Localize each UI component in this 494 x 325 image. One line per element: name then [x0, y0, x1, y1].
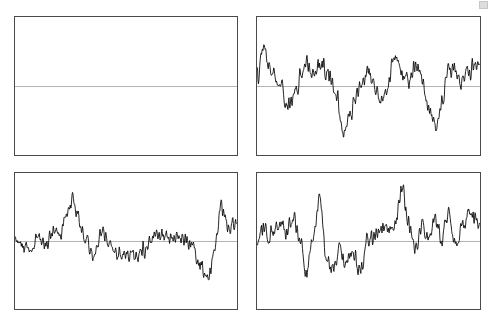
panel-bottom-left[interactable]	[14, 172, 238, 310]
panel-plot-area	[14, 172, 238, 310]
panel-plot-area	[256, 16, 481, 156]
trace-bottom-right	[258, 185, 480, 278]
panel-bottom-right[interactable]	[256, 172, 481, 310]
panel-plot-area	[14, 16, 238, 156]
trace-top-right	[258, 45, 480, 137]
timeseries-figure	[0, 0, 494, 325]
scan-artifact-icon	[479, 1, 488, 9]
trace-bottom-left	[16, 192, 237, 280]
panel-plot-area	[256, 172, 481, 310]
panel-top-right[interactable]	[256, 16, 481, 156]
panel-top-left[interactable]	[14, 16, 238, 156]
